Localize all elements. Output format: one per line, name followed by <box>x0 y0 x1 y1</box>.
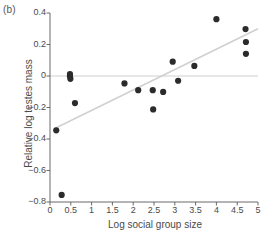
data-point <box>175 78 181 84</box>
data-point <box>191 63 197 69</box>
data-point <box>160 89 166 95</box>
data-point <box>242 26 248 32</box>
data-point <box>67 76 73 82</box>
scatter-plot-canvas <box>0 0 262 237</box>
figure-panel: (b) Relative log testes mass Log social … <box>0 0 262 237</box>
data-point <box>150 106 156 112</box>
data-point <box>170 59 176 65</box>
regression-line <box>54 29 258 129</box>
data-point <box>72 100 78 106</box>
data-point <box>121 80 127 86</box>
data-point <box>135 87 141 93</box>
data-point <box>213 16 219 22</box>
data-point <box>53 127 59 133</box>
data-point <box>243 51 249 57</box>
data-point <box>59 192 65 198</box>
data-point <box>243 39 249 45</box>
data-point <box>150 87 156 93</box>
